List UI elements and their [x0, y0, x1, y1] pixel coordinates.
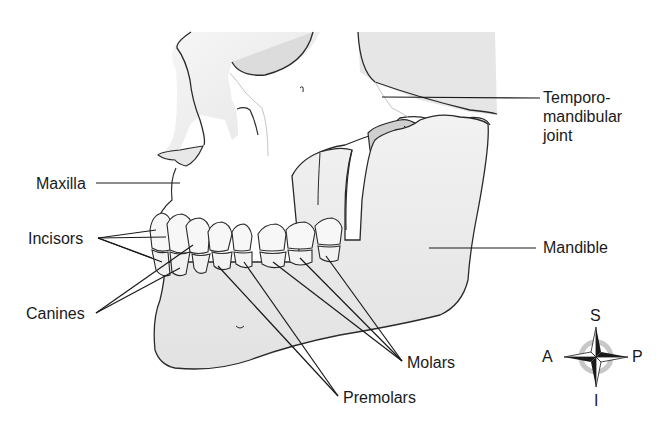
compass-inferior: I	[594, 392, 598, 410]
compass-superior: S	[590, 307, 601, 325]
label-tmj-line3: joint	[543, 126, 622, 145]
label-tmj-line1: Temporo-	[543, 88, 622, 107]
label-mandible: Mandible	[543, 238, 608, 257]
label-tmj: Temporo- mandibular joint	[543, 88, 622, 145]
label-molars: Molars	[407, 353, 455, 372]
label-incisors: Incisors	[28, 229, 83, 248]
skull-illustration	[0, 0, 669, 438]
compass-posterior: P	[632, 348, 643, 366]
label-tmj-line2: mandibular	[543, 107, 622, 126]
label-canines: Canines	[26, 304, 85, 323]
label-premolars: Premolars	[343, 388, 416, 407]
orientation-compass	[564, 327, 628, 387]
jaw-anatomy-diagram: Temporo- mandibular joint Maxilla Inciso…	[0, 0, 669, 438]
label-maxilla: Maxilla	[36, 174, 86, 193]
compass-anterior: A	[542, 348, 553, 366]
